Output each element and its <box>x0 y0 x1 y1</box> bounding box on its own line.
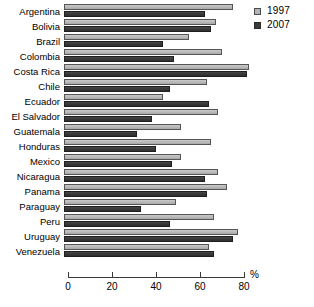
bar-2007 <box>64 26 211 32</box>
category-label: Argentina <box>0 4 64 19</box>
chart-row: Paraguay <box>0 199 314 214</box>
bar-1997 <box>64 109 218 115</box>
x-axis-tick <box>244 272 245 278</box>
bar-1997 <box>64 124 181 130</box>
bar-group <box>64 169 310 184</box>
x-axis-unit-label: % <box>250 270 259 280</box>
bar-2007 <box>64 221 170 227</box>
x-axis-tick <box>68 272 69 278</box>
category-label: Peru <box>0 214 64 229</box>
bar-2007 <box>64 86 170 92</box>
bar-2007 <box>64 251 214 257</box>
category-label: Brazil <box>0 34 64 49</box>
bar-group <box>64 109 310 124</box>
bar-1997 <box>64 49 222 55</box>
bar-group <box>64 139 310 154</box>
bar-group <box>64 64 310 79</box>
bar-group <box>64 79 310 94</box>
x-axis: 020406080 % <box>0 272 314 307</box>
x-axis-tick-label: 0 <box>65 282 71 292</box>
bar-1997 <box>64 4 233 10</box>
bar-1997 <box>64 64 249 70</box>
bar-group <box>64 49 310 64</box>
x-axis-tick <box>156 272 157 278</box>
bar-1997 <box>64 214 214 220</box>
chart-row: Panama <box>0 184 314 199</box>
bar-1997 <box>64 79 207 85</box>
bar-2007 <box>64 11 205 17</box>
bar-1997 <box>64 19 216 25</box>
bar-2007 <box>64 146 156 152</box>
bar-group <box>64 124 310 139</box>
category-label: Venezuela <box>0 244 64 259</box>
chart-row: Argentina <box>0 4 314 19</box>
x-axis-tick <box>112 272 113 278</box>
bar-1997 <box>64 34 189 40</box>
chart-row: Venezuela <box>0 244 314 259</box>
bar-1997 <box>64 184 227 190</box>
chart-row: Guatemala <box>0 124 314 139</box>
bar-chart: 1997 2007 ArgentinaBoliviaBrazilColombia… <box>0 0 314 307</box>
chart-row: Colombia <box>0 49 314 64</box>
bar-group <box>64 199 310 214</box>
category-label: El Salvador <box>0 109 64 124</box>
x-axis-tick <box>200 272 201 278</box>
x-axis-tick-label: 20 <box>106 282 117 292</box>
category-label: Panama <box>0 184 64 199</box>
bar-group <box>64 94 310 109</box>
bar-1997 <box>64 139 211 145</box>
bar-2007 <box>64 131 137 137</box>
bar-1997 <box>64 229 238 235</box>
plot-area: ArgentinaBoliviaBrazilColombiaCosta Rica… <box>0 4 314 259</box>
category-label: Costa Rica <box>0 64 64 79</box>
bar-1997 <box>64 154 181 160</box>
category-label: Nicaragua <box>0 169 64 184</box>
bar-group <box>64 154 310 169</box>
bar-2007 <box>64 116 152 122</box>
chart-row: El Salvador <box>0 109 314 124</box>
chart-row: Costa Rica <box>0 64 314 79</box>
bar-group <box>64 4 310 19</box>
chart-row: Ecuador <box>0 94 314 109</box>
category-label: Ecuador <box>0 94 64 109</box>
chart-row: Chile <box>0 79 314 94</box>
chart-row: Bolivia <box>0 19 314 34</box>
bar-2007 <box>64 191 207 197</box>
bar-group <box>64 214 310 229</box>
category-label: Chile <box>0 79 64 94</box>
bar-group <box>64 19 310 34</box>
x-axis-tick-label: 60 <box>194 282 205 292</box>
bar-2007 <box>64 71 247 77</box>
bar-2007 <box>64 206 141 212</box>
category-label: Honduras <box>0 139 64 154</box>
bar-group <box>64 34 310 49</box>
chart-row: Peru <box>0 214 314 229</box>
bar-2007 <box>64 236 233 242</box>
category-label: Mexico <box>0 154 64 169</box>
category-label: Uruguay <box>0 229 64 244</box>
bar-2007 <box>64 41 163 47</box>
bar-1997 <box>64 199 176 205</box>
bar-1997 <box>64 169 218 175</box>
category-label: Guatemala <box>0 124 64 139</box>
category-label: Bolivia <box>0 19 64 34</box>
bar-2007 <box>64 56 174 62</box>
chart-row: Uruguay <box>0 229 314 244</box>
category-label: Paraguay <box>0 199 64 214</box>
chart-row: Mexico <box>0 154 314 169</box>
bar-1997 <box>64 244 209 250</box>
x-axis-tick-label: 40 <box>150 282 161 292</box>
bar-1997 <box>64 94 163 100</box>
bar-2007 <box>64 161 172 167</box>
category-label: Colombia <box>0 49 64 64</box>
bar-group <box>64 229 310 244</box>
chart-row: Nicaragua <box>0 169 314 184</box>
bar-group <box>64 184 310 199</box>
x-axis-tick-label: 80 <box>238 282 249 292</box>
chart-row: Brazil <box>0 34 314 49</box>
chart-row: Honduras <box>0 139 314 154</box>
bar-group <box>64 244 310 259</box>
bar-2007 <box>64 176 205 182</box>
bar-2007 <box>64 101 209 107</box>
